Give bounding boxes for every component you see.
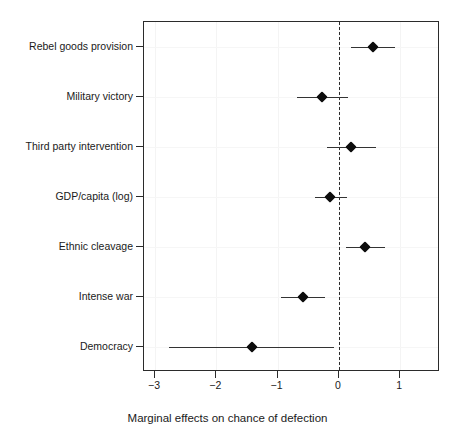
plot-area: [143, 21, 439, 371]
estimate-point: [359, 241, 370, 252]
horizontal-gridline: [144, 147, 438, 148]
y-axis-tick-mark: [136, 346, 143, 347]
estimate-point: [325, 191, 336, 202]
horizontal-gridline: [144, 197, 438, 198]
x-axis: −3−2−101: [143, 371, 439, 401]
x-axis-tick-mark: [338, 371, 339, 378]
y-axis-tick-mark: [136, 146, 143, 147]
estimate-point: [345, 141, 356, 152]
x-axis-title: Marginal effects on chance of defection: [0, 412, 455, 424]
y-axis-tick-mark: [136, 246, 143, 247]
vertical-gridline: [155, 22, 156, 370]
estimate-point: [367, 41, 378, 52]
y-axis-ticks: [0, 21, 143, 371]
x-axis-tick-mark: [215, 371, 216, 378]
x-axis-tick-label: −1: [271, 380, 283, 391]
vertical-gridline: [400, 22, 401, 370]
estimate-point: [246, 341, 257, 352]
horizontal-gridline: [144, 97, 438, 98]
y-axis-tick-mark: [136, 96, 143, 97]
y-axis-tick-mark: [136, 196, 143, 197]
horizontal-gridline: [144, 247, 438, 248]
figure-container: Rebel goods provisionMilitary victoryThi…: [0, 0, 455, 441]
x-axis-tick-label: 1: [396, 380, 402, 391]
estimate-point: [297, 291, 308, 302]
x-axis-tick-mark: [154, 371, 155, 378]
zero-reference-line: [339, 22, 340, 370]
vertical-gridline: [278, 22, 279, 370]
y-axis-tick-mark: [136, 296, 143, 297]
x-axis-tick-label: −2: [209, 380, 221, 391]
x-axis-tick-label: −3: [148, 380, 160, 391]
estimate-point: [317, 91, 328, 102]
vertical-gridline: [216, 22, 217, 370]
x-axis-tick-mark: [399, 371, 400, 378]
y-axis-tick-mark: [136, 46, 143, 47]
x-axis-tick-mark: [277, 371, 278, 378]
x-axis-tick-label: 0: [335, 380, 341, 391]
